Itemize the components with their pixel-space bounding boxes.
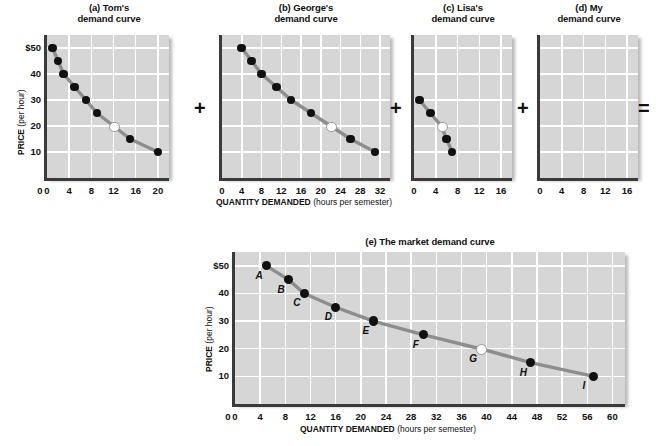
y-tick-label: 10	[197, 370, 229, 381]
point-label-H: H	[520, 367, 527, 378]
x-axis-label-sub: (hours per semester)	[311, 197, 392, 207]
plus-operator-1: +	[194, 98, 206, 118]
x-tick-label: 48	[525, 411, 549, 422]
y-axis-label-main: PRICE	[204, 346, 214, 372]
x-tick-label: 8	[273, 411, 297, 422]
x-tick-label: 44	[500, 411, 524, 422]
panel-market-demand-curve: (e) The market demand curveABCDEFGHI0481…	[0, 0, 658, 446]
plus-operator-3: +	[517, 98, 529, 118]
x-tick-label: 28	[399, 411, 423, 422]
point-label-G: G	[469, 353, 477, 364]
x-tick-label: 16	[324, 411, 348, 422]
point-label-A: A	[255, 270, 262, 281]
point-label-B: B	[277, 284, 284, 295]
x-tick-label: 24	[374, 411, 398, 422]
x-tick-label-zero: 0	[220, 411, 236, 422]
x-tick-label: 20	[349, 411, 373, 422]
point-label-I: I	[583, 380, 586, 391]
point-label-F: F	[413, 339, 419, 350]
x-tick-label: 60	[600, 411, 624, 422]
x-tick-label: 40	[475, 411, 499, 422]
x-axis-label-main: QUANTITY DEMANDED	[300, 424, 395, 434]
x-axis-caption-top: QUANTITY DEMANDED (hours per semester)	[216, 197, 392, 207]
x-tick-label: 4	[248, 411, 272, 422]
data-point-market	[369, 316, 378, 325]
x-axis-label-sub: (hours per semester)	[395, 424, 476, 434]
panel-title-market: (e) The market demand curve	[235, 236, 625, 247]
y-tick-label: $50	[197, 260, 229, 271]
demand-curve-line-market	[235, 252, 633, 412]
y-axis-label-sub: (per hour)	[204, 306, 214, 346]
x-axis-caption-bottom: QUANTITY DEMANDED (hours per semester)	[300, 424, 476, 434]
x-tick-label: 12	[298, 411, 322, 422]
data-point-market	[331, 303, 340, 312]
equals-operator: =	[638, 98, 650, 118]
point-label-C: C	[293, 297, 300, 308]
data-point-market	[589, 372, 598, 381]
data-point-market	[300, 289, 309, 298]
point-label-E: E	[362, 325, 369, 336]
x-tick-label: 52	[550, 411, 574, 422]
x-axis-label-main: QUANTITY DEMANDED	[216, 197, 311, 207]
y-axis-label-market: PRICE (per hour)	[204, 306, 214, 372]
plus-operator-2: +	[390, 98, 402, 118]
point-label-D: D	[325, 311, 332, 322]
x-tick-label: 32	[424, 411, 448, 422]
x-tick-label: 36	[449, 411, 473, 422]
x-tick-label: 56	[575, 411, 599, 422]
y-tick-label: 40	[197, 287, 229, 298]
